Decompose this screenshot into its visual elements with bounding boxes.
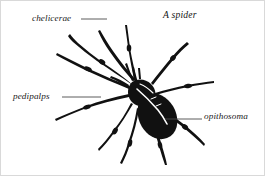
label-opithosoma: opithosoma <box>204 112 248 121</box>
leg-second-left <box>125 25 138 83</box>
figure-title: A spider <box>163 10 197 20</box>
leg-joint-8 <box>184 83 193 88</box>
label-pedipalps: pedipalps <box>13 92 50 101</box>
chelicera-right <box>138 68 141 79</box>
opithosoma-abdomen <box>138 93 178 139</box>
spider-illustration <box>1 1 265 176</box>
leg-joint-4 <box>82 104 91 111</box>
leg-joint-2 <box>127 44 132 51</box>
label-chelicerae: chelicerae <box>32 14 71 23</box>
leg-rear-left <box>55 94 129 121</box>
leg-front-right <box>151 42 189 85</box>
leg-second-right <box>155 81 214 95</box>
spider-diagram-figure: A spider chelicerae pedipalps opithosoma <box>0 0 265 176</box>
leg-third-left <box>56 53 131 89</box>
leg-sixth-left <box>120 108 139 164</box>
